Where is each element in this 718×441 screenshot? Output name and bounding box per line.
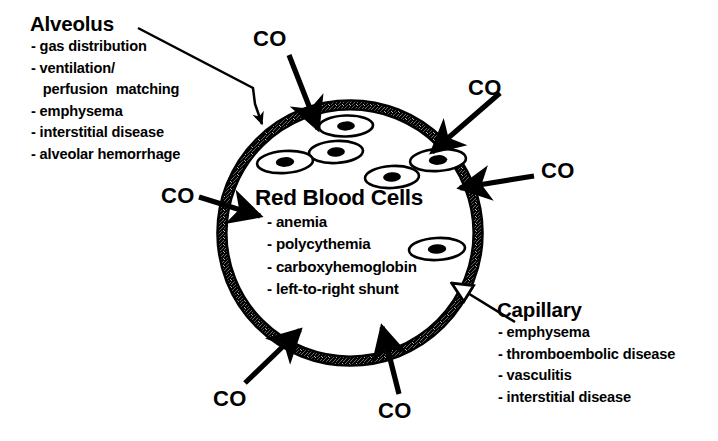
co-label: CO — [253, 28, 287, 50]
alveolus-item: - ventilation/ — [30, 58, 180, 80]
capillary-item: - emphysema — [497, 322, 675, 344]
co-label: CO — [378, 400, 412, 422]
red-blood-cells-title: Red Blood Cells — [255, 185, 423, 211]
alveolus-item: - gas distribution — [30, 36, 180, 58]
red-blood-cells-item: - carboxyhemoglobin — [255, 256, 423, 278]
diagram-canvas: Alveolus - gas distribution- ventilation… — [0, 0, 718, 441]
red-blood-cell — [256, 149, 313, 175]
co-label: CO — [213, 388, 247, 410]
red-blood-cells-item: - polycythemia — [255, 233, 423, 255]
red-blood-cells-item: - left-to-right shunt — [255, 278, 423, 300]
co-label: CO — [541, 160, 575, 182]
co-flux-arrow — [432, 93, 500, 152]
alveolus-item: - emphysema — [30, 101, 180, 123]
capillary-title: Capillary — [497, 298, 675, 322]
alveolus-item: - alveolar hemorrhage — [30, 144, 180, 166]
red-blood-cell — [308, 140, 363, 165]
capillary-annotation: Capillary - emphysema- thromboembolic di… — [497, 298, 675, 408]
co-label: CO — [161, 185, 195, 207]
red-blood-cells-item: - anemia — [255, 211, 423, 233]
alveolus-annotation: Alveolus - gas distribution- ventilation… — [30, 12, 180, 165]
capillary-item: - thromboembolic disease — [497, 344, 675, 366]
co-label: CO — [468, 77, 502, 99]
red-blood-cell — [319, 115, 374, 138]
alveolus-item: - interstitial disease — [30, 122, 180, 144]
capillary-item-list: - emphysema- thromboembolic disease- vas… — [497, 322, 675, 408]
alveolus-item: perfusion matching — [30, 79, 180, 101]
capillary-item: - vasculitis — [497, 365, 675, 387]
alveolus-title: Alveolus — [30, 12, 180, 36]
red-blood-cells-annotation: Red Blood Cells - anemia- polycythemia- … — [255, 185, 423, 301]
alveolus-item-list: - gas distribution- ventilation/ perfusi… — [30, 36, 180, 165]
capillary-item: - interstitial disease — [497, 387, 675, 409]
red-blood-cells-item-list: - anemia- polycythemia- carboxyhemoglobi… — [255, 211, 423, 301]
